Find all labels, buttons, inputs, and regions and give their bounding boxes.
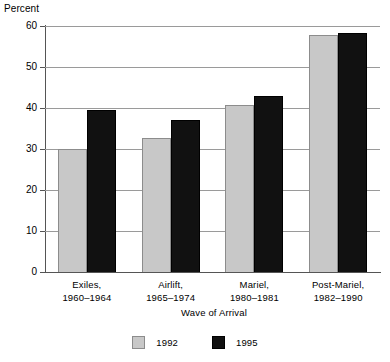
y-tick-label: 40 bbox=[0, 103, 37, 113]
y-tick-mark bbox=[40, 231, 45, 232]
y-tick-label: 20 bbox=[0, 185, 37, 195]
bar bbox=[225, 105, 254, 272]
legend-item[interactable]: 1995 bbox=[212, 336, 258, 349]
bar bbox=[254, 96, 283, 272]
category-label-line1: Post-Mariel, bbox=[278, 278, 390, 291]
bar-chart: Percent 0102030405060 Exiles,1960–1964Ai… bbox=[0, 0, 390, 362]
gridline bbox=[45, 26, 380, 27]
chart-legend: 19921995 bbox=[0, 336, 390, 349]
y-tick-label: 10 bbox=[0, 226, 37, 236]
plot-area: 0102030405060 bbox=[45, 26, 380, 272]
y-tick-mark bbox=[40, 26, 45, 27]
bar bbox=[87, 110, 116, 272]
category-label-line2: 1982–1990 bbox=[278, 291, 390, 304]
bar bbox=[309, 35, 338, 272]
x-axis-title: Wave of Arrival bbox=[0, 307, 390, 319]
y-tick-mark bbox=[40, 149, 45, 150]
y-tick-mark bbox=[40, 67, 45, 68]
y-tick-mark bbox=[40, 108, 45, 109]
black-swatch bbox=[212, 336, 225, 349]
y-tick-mark bbox=[40, 272, 45, 273]
y-tick-label: 30 bbox=[0, 144, 37, 154]
legend-item[interactable]: 1992 bbox=[132, 336, 178, 349]
legend-label: 1992 bbox=[156, 337, 178, 348]
y-tick-label: 0 bbox=[0, 267, 37, 277]
legend-label: 1995 bbox=[236, 337, 258, 348]
y-tick-label: 50 bbox=[0, 62, 37, 72]
y-axis-title: Percent bbox=[4, 3, 39, 15]
x-axis-line bbox=[45, 272, 381, 273]
bar bbox=[171, 120, 200, 272]
y-tick-label: 60 bbox=[0, 21, 37, 31]
bar bbox=[58, 149, 87, 272]
x-axis-category-label: Post-Mariel,1982–1990 bbox=[278, 278, 390, 304]
y-tick-mark bbox=[40, 190, 45, 191]
light-gray-swatch bbox=[132, 336, 145, 349]
bar bbox=[142, 138, 171, 272]
bar bbox=[338, 33, 367, 272]
